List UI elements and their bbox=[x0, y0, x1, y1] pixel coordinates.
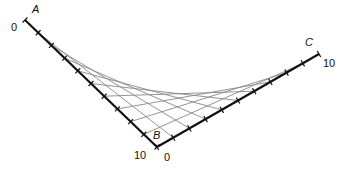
point-a-label: A bbox=[32, 4, 39, 15]
envelope-curve-drawing bbox=[0, 0, 342, 173]
string-line bbox=[144, 63, 303, 134]
axis-ba-start-label: 0 bbox=[11, 22, 17, 33]
point-c-label: C bbox=[305, 37, 313, 48]
string-line bbox=[91, 84, 238, 101]
point-b-label: B bbox=[153, 130, 160, 141]
axis-bc-start-label: 0 bbox=[164, 152, 170, 163]
axis-ba-end-label: 10 bbox=[134, 150, 146, 161]
axis-bc-end-label: 10 bbox=[323, 58, 335, 69]
string-art-diagram: A 0 B 10 0 C 10 bbox=[0, 0, 342, 173]
